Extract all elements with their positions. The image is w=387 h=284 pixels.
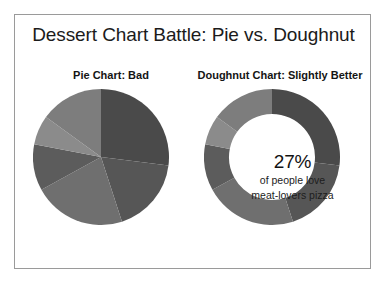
- chart-slice: [101, 89, 169, 166]
- page-title: Dessert Chart Battle: Pie vs. Doughnut: [15, 23, 372, 47]
- doughnut-chart-caption: Doughnut Chart: Slightly Better: [191, 68, 369, 82]
- slide-canvas: Dessert Chart Battle: Pie vs. Doughnut P…: [14, 14, 371, 269]
- pie-chart: [33, 89, 169, 225]
- pie-chart-caption: Pie Chart: Bad: [23, 68, 199, 82]
- doughnut-center-percent: 27%: [234, 151, 351, 173]
- doughnut-center-line2: of people love: [234, 173, 351, 188]
- pie-chart-svg: [33, 89, 169, 225]
- doughnut-center-line3: meat-lovers pizza: [234, 188, 351, 203]
- doughnut-center-label: 27% of people love meat-lovers pizza: [234, 151, 351, 203]
